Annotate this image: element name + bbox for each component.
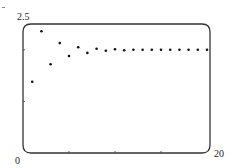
data-point [31, 81, 34, 84]
data-point [59, 42, 62, 45]
data-point [95, 48, 98, 51]
data-point [141, 49, 144, 52]
data-point [68, 55, 71, 58]
y-max-label: 2.5 [17, 12, 30, 22]
data-point [160, 49, 163, 52]
x-max-label: 20 [214, 149, 224, 159]
data-point [151, 49, 154, 52]
data-point [178, 49, 181, 52]
data-point [114, 48, 117, 51]
x-min-label: 0 [15, 156, 20, 166]
data-point [169, 49, 172, 52]
data-point [86, 52, 89, 55]
axis-ticks [23, 50, 161, 153]
data-point [77, 46, 80, 49]
data-point [105, 50, 108, 53]
plot-frame [23, 24, 210, 153]
data-point [49, 63, 52, 66]
data-point [132, 49, 135, 52]
data-point [206, 49, 209, 52]
data-points [31, 30, 208, 83]
data-point [197, 49, 200, 52]
data-point [187, 49, 190, 52]
data-point [123, 49, 126, 52]
data-point [40, 30, 43, 33]
scatter-plot [0, 0, 232, 168]
